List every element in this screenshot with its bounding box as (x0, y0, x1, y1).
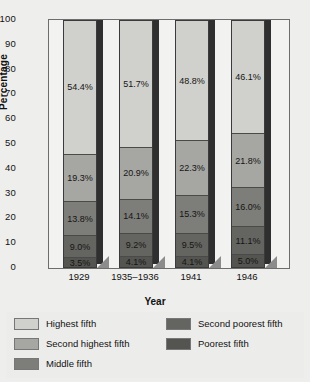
bar-side-panel (97, 20, 103, 264)
legend-swatch (14, 318, 39, 330)
plot-inner: 54.4%19.3%13.8%9.0%3.5%51.7%20.9%14.1%9.… (49, 20, 289, 268)
bar-segment[interactable]: 9.0% (64, 236, 96, 258)
bar-segment[interactable]: 13.8% (64, 202, 96, 236)
bar-side-panel (265, 20, 271, 264)
legend-item[interactable]: Poorest fifth (166, 338, 249, 350)
legend-label: Poorest fifth (198, 339, 249, 349)
bar-segment[interactable]: 51.7% (120, 21, 152, 148)
segment-value-label: 15.3% (176, 210, 208, 219)
bar-side-panel (209, 20, 215, 264)
plot-area: 54.4%19.3%13.8%9.0%3.5%51.7%20.9%14.1%9.… (48, 19, 290, 269)
segment-value-label: 20.9% (120, 169, 152, 178)
legend-swatch (14, 358, 39, 370)
y-tick-label: 30 (0, 188, 16, 198)
bar-segment[interactable]: 9.2% (120, 234, 152, 257)
segment-value-label: 9.2% (120, 241, 152, 250)
bar-segment[interactable]: 16.0% (232, 188, 264, 227)
y-tick-label: 100 (0, 14, 16, 24)
segment-value-label: 46.1% (232, 73, 264, 82)
legend-item[interactable]: Second poorest fifth (166, 318, 283, 330)
x-tick-label: 1946 (212, 272, 282, 282)
bar-segment[interactable]: 4.1% (176, 257, 208, 267)
segment-value-label: 14.1% (120, 212, 152, 221)
bar-segment[interactable]: 54.4% (64, 21, 96, 155)
legend-label: Second highest fifth (46, 339, 129, 349)
segment-value-label: 9.0% (64, 242, 96, 251)
x-axis-title: Year (0, 296, 310, 307)
segment-value-label: 19.3% (64, 174, 96, 183)
legend-item[interactable]: Second highest fifth (14, 338, 129, 350)
bar-segment[interactable]: 20.9% (120, 148, 152, 199)
legend-label: Second poorest fifth (198, 319, 283, 329)
y-tick-label: 60 (0, 113, 16, 123)
segment-value-label: 9.5% (176, 240, 208, 249)
bar-side-panel (153, 20, 159, 264)
bar-segment[interactable]: 46.1% (232, 21, 264, 134)
y-tick-label: 40 (0, 163, 16, 173)
segment-value-label: 11.1% (232, 236, 264, 245)
segment-value-label: 22.3% (176, 163, 208, 172)
legend-item[interactable]: Middle fifth (14, 358, 92, 370)
segment-value-label: 5.0% (232, 256, 264, 265)
segment-value-label: 51.7% (120, 80, 152, 89)
y-axis-title: Percentage (0, 54, 9, 110)
bar-segment[interactable]: 14.1% (120, 200, 152, 235)
segment-value-label: 16.0% (232, 203, 264, 212)
segment-value-label: 4.1% (176, 257, 208, 266)
bar-group: 51.7%20.9%14.1%9.2%4.1% (119, 20, 159, 268)
legend-item[interactable]: Highest fifth (14, 318, 96, 330)
stacked-bar[interactable]: 54.4%19.3%13.8%9.0%3.5% (63, 20, 97, 268)
segment-value-label: 21.8% (232, 156, 264, 165)
y-tick-label: 50 (0, 138, 16, 148)
segment-value-label: 4.1% (120, 257, 152, 266)
bar-group: 54.4%19.3%13.8%9.0%3.5% (63, 20, 103, 268)
legend-swatch (14, 338, 39, 350)
stacked-bar[interactable]: 46.1%21.8%16.0%11.1%5.0% (231, 20, 265, 268)
segment-value-label: 48.8% (176, 76, 208, 85)
segment-value-label: 3.5% (64, 258, 96, 267)
bar-segment[interactable]: 19.3% (64, 155, 96, 202)
bar-segment[interactable]: 5.0% (232, 255, 264, 267)
chart-root: 54.4%19.3%13.8%9.0%3.5%51.7%20.9%14.1%9.… (0, 0, 310, 382)
legend-label: Highest fifth (46, 319, 96, 329)
bar-group: 48.8%22.3%15.3%9.5%4.1% (175, 20, 215, 268)
bar-segment[interactable]: 15.3% (176, 196, 208, 234)
chart-legend: Highest fifthSecond highest fifthMiddle … (6, 312, 304, 378)
stacked-bar[interactable]: 48.8%22.3%15.3%9.5%4.1% (175, 20, 209, 268)
y-tick-label: 10 (0, 237, 16, 247)
segment-value-label: 54.4% (64, 83, 96, 92)
y-tick-label: 90 (0, 39, 16, 49)
legend-swatch (166, 318, 191, 330)
bar-segment[interactable]: 22.3% (176, 141, 208, 196)
segment-value-label: 13.8% (64, 214, 96, 223)
bar-segment[interactable]: 21.8% (232, 134, 264, 188)
legend-label: Middle fifth (46, 359, 92, 369)
bar-segment[interactable]: 4.1% (120, 257, 152, 267)
bar-segment[interactable]: 9.5% (176, 234, 208, 257)
y-tick-label: 20 (0, 212, 16, 222)
bar-segment[interactable]: 11.1% (232, 227, 264, 254)
y-tick-label: 0 (0, 262, 16, 272)
bar-segment[interactable]: 3.5% (64, 258, 96, 267)
legend-swatch (166, 338, 191, 350)
bar-group: 46.1%21.8%16.0%11.1%5.0% (231, 20, 271, 268)
bar-segment[interactable]: 48.8% (176, 21, 208, 141)
stacked-bar[interactable]: 51.7%20.9%14.1%9.2%4.1% (119, 20, 153, 268)
